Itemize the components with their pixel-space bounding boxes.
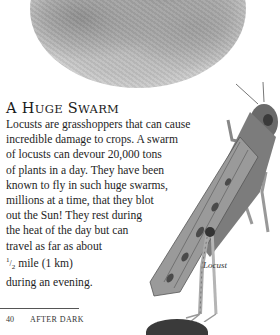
heading-letter: H xyxy=(22,100,35,116)
page-number: 40 xyxy=(6,315,14,324)
illustration-caption: Locust xyxy=(203,260,227,270)
running-footer-title: AFTER DARK xyxy=(30,315,84,324)
heading-letter: S xyxy=(68,100,78,116)
heading-letter: A xyxy=(6,100,17,116)
footer-divider xyxy=(0,308,79,309)
locust-illustration-icon xyxy=(140,82,280,322)
heading-smallcaps: WARM xyxy=(78,102,119,116)
locust-photo xyxy=(30,0,246,88)
heading-smallcaps: UGE xyxy=(35,102,63,116)
fraction: 1/2 xyxy=(6,259,15,268)
section-heading: A HUGE SWARM xyxy=(6,100,119,116)
